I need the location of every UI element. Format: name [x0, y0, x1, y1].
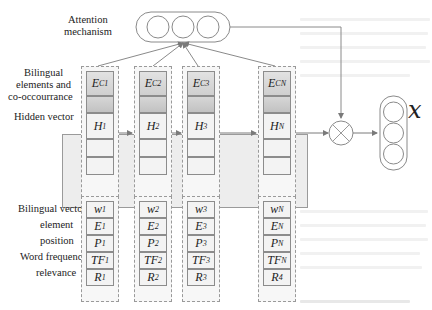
column-1-input: w1 E1 P1 TF1 R1 — [81, 196, 119, 302]
cell-h-blank — [187, 139, 215, 157]
cell-h-blank — [263, 157, 291, 175]
label-element: element — [40, 219, 73, 231]
cell-r-1: R1 — [86, 269, 114, 286]
cell-p-1: P1 — [86, 235, 114, 252]
column-n-input: wN EN PN TFN R4 — [258, 196, 296, 302]
cell-tf-n: TFN — [263, 252, 291, 269]
label-relevance: relevance — [36, 267, 76, 279]
cell-h-2: H2 — [139, 113, 167, 139]
cell-h-blank — [86, 157, 114, 175]
cell-w-n: wN — [263, 201, 291, 218]
label-bilingual-vector: Bilingual vector — [18, 203, 86, 215]
label-bilingual-2: elements and — [16, 79, 71, 91]
cell-w-2: w2 — [139, 201, 167, 218]
cell-e-n: EN — [263, 218, 291, 235]
column-n-top: ECN HN — [258, 66, 296, 207]
cell-h-blank — [263, 139, 291, 157]
column-2-top: EC2 H2 — [134, 66, 172, 207]
cell-ec-3: EC3 — [187, 71, 215, 96]
cell-r-3: R3 — [187, 269, 215, 286]
column-3-input: w3 E3 P3 TF3 R3 — [182, 196, 220, 302]
column-1-top: EC1 H1 — [81, 66, 119, 207]
cell-e-3: E3 — [187, 218, 215, 235]
cell-ec-shade-2 — [139, 96, 167, 113]
cell-ec-shade-3 — [187, 96, 215, 113]
cell-ec-2: EC2 — [139, 71, 167, 96]
cell-h-n: HN — [263, 113, 291, 139]
output-label-x: x — [408, 96, 422, 124]
cell-h-blank — [187, 157, 215, 175]
cell-r-2: R2 — [139, 269, 167, 286]
cell-p-n: PN — [263, 235, 291, 252]
cell-ec-1: EC1 — [86, 71, 114, 96]
cell-h-3: H3 — [187, 113, 215, 139]
cell-tf-3: TF3 — [187, 252, 215, 269]
cell-p-3: P3 — [187, 235, 215, 252]
diagram-canvas: Attention mechanism Bilingual elements a… — [0, 0, 432, 310]
cell-w-3: w3 — [187, 201, 215, 218]
cell-e-1: E1 — [86, 218, 114, 235]
label-attention-2: mechanism — [64, 26, 112, 38]
cell-h-1: H1 — [86, 113, 114, 139]
cell-h-blank — [139, 157, 167, 175]
cell-e-2: E2 — [139, 218, 167, 235]
cell-h-blank — [86, 139, 114, 157]
cell-w-1: w1 — [86, 201, 114, 218]
label-word-frequency: Word frequency — [20, 251, 88, 263]
column-2-input: w2 E2 P2 TF2 R2 — [134, 196, 172, 302]
cell-h-blank — [139, 139, 167, 157]
cell-p-2: P2 — [139, 235, 167, 252]
cell-tf-1: TF1 — [86, 252, 114, 269]
cell-r-n: R4 — [263, 269, 291, 286]
label-attention-1: Attention — [68, 14, 108, 26]
label-hidden-vector: Hidden vector — [14, 111, 74, 123]
label-bilingual-1: Bilingual — [24, 67, 63, 79]
column-3-top: EC3 H3 — [182, 66, 220, 207]
cell-ec-n: ECN — [263, 71, 291, 96]
cell-tf-2: TF2 — [139, 252, 167, 269]
label-bilingual-3: co-occourrance — [8, 91, 73, 103]
cell-ec-shade-1 — [86, 96, 114, 113]
label-position: position — [40, 235, 74, 247]
cell-ec-shade-n — [263, 96, 291, 113]
